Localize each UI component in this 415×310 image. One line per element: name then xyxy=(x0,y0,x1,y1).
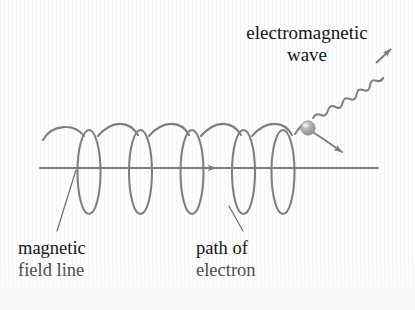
electron-velocity-arrow xyxy=(314,133,342,152)
helix-loop-3 xyxy=(181,130,204,214)
helix-loop-4 xyxy=(232,130,255,214)
helix-loop-5 xyxy=(272,130,295,214)
electron-sphere xyxy=(301,121,315,135)
electron-body xyxy=(301,121,315,135)
helix-loop-1 xyxy=(78,130,101,214)
em-wave-label-line2: wave xyxy=(287,44,327,65)
electromagnetic-wave-diagram: electromagnetic wave magnetic field line… xyxy=(0,0,415,310)
leader-line-path-of-electron xyxy=(229,206,243,231)
helix-top-arc-1 xyxy=(98,124,138,136)
magnetic-field-label-line2: field line xyxy=(18,260,84,280)
magnetic-field-label-line1: magnetic xyxy=(18,238,86,258)
path-of-electron-label-line2: electron xyxy=(196,260,256,280)
electron-highlight xyxy=(303,124,308,128)
helix-top-arc-4 xyxy=(252,124,292,136)
velocity-arrow-curve xyxy=(314,133,342,152)
helix-top-arc-2 xyxy=(149,124,189,136)
em-wave-label-line1: electromagnetic xyxy=(246,22,367,43)
leader-line-magnetic-field xyxy=(57,170,76,231)
wave-squiggle xyxy=(313,78,383,118)
wave-arrowhead xyxy=(376,49,391,63)
helix-loop-2 xyxy=(129,130,152,214)
helix-top-arc-3 xyxy=(201,124,241,136)
path-of-electron-label-line1: path of xyxy=(196,238,249,258)
figure-root: electromagnetic wave magnetic field line… xyxy=(0,0,415,310)
helix-entry-arc xyxy=(43,127,84,140)
